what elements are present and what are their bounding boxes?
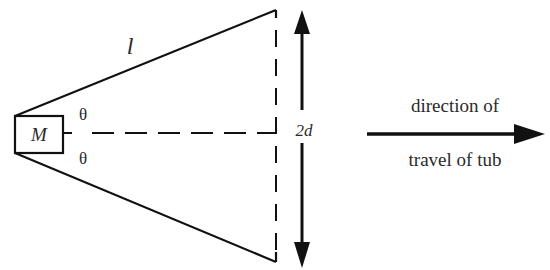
arrow-down-icon (294, 242, 310, 268)
angle-top-label: θ (79, 105, 87, 124)
upper-string-line (15, 10, 276, 116)
arrow-up-icon (294, 10, 310, 34)
direction-label-line1: direction of (411, 95, 500, 116)
arrow-right-icon (514, 124, 545, 144)
length-label: l (127, 33, 134, 59)
mass-label: M (30, 124, 48, 145)
separation-label: 2d (296, 121, 314, 140)
angle-bottom-label: θ (79, 149, 87, 168)
lower-string-line (15, 153, 276, 262)
direction-label-line2: travel of tub (409, 149, 502, 170)
diagram-canvas: M l θ θ 2d direction of travel of tub (0, 0, 550, 270)
